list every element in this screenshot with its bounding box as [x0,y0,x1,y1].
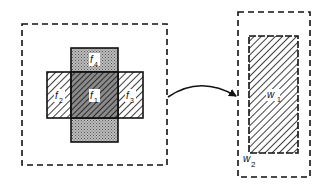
svg-text:2: 2 [251,160,256,169]
svg-text:w: w [267,89,275,100]
label-w1: w 1 [266,89,281,103]
svg-text:w: w [243,153,251,164]
svg-text:1: 1 [94,97,98,104]
svg-text:4: 4 [94,61,98,68]
label-f3: f 3 [125,89,136,104]
svg-text:3: 3 [130,97,134,104]
label-f2: f 2 [54,89,65,104]
label-f1: f 1 [89,89,100,104]
region-f5 [71,118,118,142]
label-f4: f 4 [89,53,100,68]
svg-text:1: 1 [277,96,281,103]
svg-text:2: 2 [59,97,63,104]
mapping-arrow [168,86,236,97]
label-w2: w 2 [243,153,256,169]
diagram-canvas: f 4 f 2 f 1 f 3 w 1 w 2 [0,0,325,188]
